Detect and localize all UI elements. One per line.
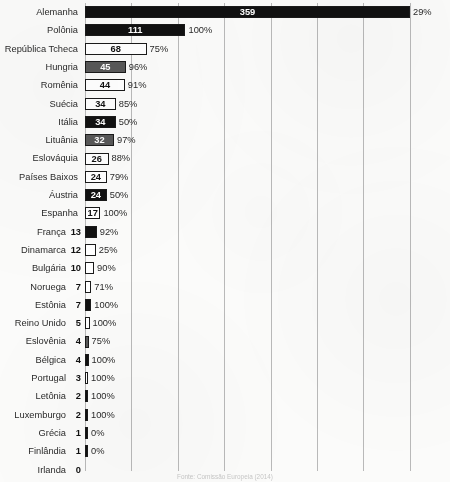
bar bbox=[85, 317, 90, 329]
bar-value: 32 bbox=[85, 134, 114, 146]
chart-row: Suécia3485% bbox=[0, 95, 450, 113]
source-note: Fonte: Comissão Europeia (2014) bbox=[0, 473, 450, 480]
chart-row: Países Baixos2479% bbox=[0, 168, 450, 186]
percent-label: 85% bbox=[119, 95, 138, 113]
chart-row: Lituânia3297% bbox=[0, 131, 450, 149]
percent-label: 75% bbox=[92, 332, 111, 350]
category-label: Romênia bbox=[0, 76, 78, 94]
category-label: Polônia bbox=[0, 21, 78, 39]
category-label: Hungria bbox=[0, 58, 78, 76]
percent-label: 100% bbox=[91, 387, 115, 405]
bar bbox=[85, 299, 91, 311]
bar-value: 7 bbox=[65, 296, 81, 314]
chart-row: Noruega771% bbox=[0, 278, 450, 296]
category-label: Eslováquia bbox=[0, 149, 78, 167]
bar bbox=[85, 372, 88, 384]
bar-value: 10 bbox=[65, 259, 81, 277]
percent-label: 100% bbox=[93, 314, 117, 332]
bar-value: 111 bbox=[85, 24, 185, 36]
chart-row: Bélgica4100% bbox=[0, 351, 450, 369]
bar bbox=[85, 409, 88, 421]
percent-label: 100% bbox=[103, 204, 127, 222]
category-label: Grécia bbox=[0, 424, 66, 442]
chart-row: República Tcheca6875% bbox=[0, 40, 450, 58]
chart-row: Romênia4491% bbox=[0, 76, 450, 94]
percent-label: 97% bbox=[117, 131, 136, 149]
chart-row: Bulgária1090% bbox=[0, 259, 450, 277]
bar bbox=[85, 354, 89, 366]
bar-value: 13 bbox=[65, 223, 81, 241]
chart-row: Finlândia10% bbox=[0, 442, 450, 460]
category-label: França bbox=[0, 223, 66, 241]
bar-value: 24 bbox=[85, 189, 107, 201]
percent-label: 75% bbox=[150, 40, 169, 58]
bar bbox=[85, 281, 91, 293]
category-label: Espanha bbox=[0, 204, 78, 222]
category-label: Luxemburgo bbox=[0, 406, 66, 424]
horizontal-bar-chart: Alemanha35929%Polônia111100%República Tc… bbox=[0, 0, 450, 482]
category-label: Estônia bbox=[0, 296, 66, 314]
category-label: Alemanha bbox=[0, 3, 78, 21]
chart-row: Itália3450% bbox=[0, 113, 450, 131]
bar-value: 4 bbox=[65, 332, 81, 350]
bar bbox=[85, 336, 89, 348]
category-label: Lituânia bbox=[0, 131, 78, 149]
category-label: Portugal bbox=[0, 369, 66, 387]
bar-value: 1 bbox=[65, 424, 81, 442]
percent-label: 79% bbox=[110, 168, 129, 186]
category-label: Áustria bbox=[0, 186, 78, 204]
bar-value: 7 bbox=[65, 278, 81, 296]
chart-row: Eslováquia2688% bbox=[0, 149, 450, 167]
category-label: Noruega bbox=[0, 278, 66, 296]
chart-row: França1392% bbox=[0, 223, 450, 241]
category-label: Reino Unido bbox=[0, 314, 66, 332]
percent-label: 50% bbox=[110, 186, 129, 204]
percent-label: 100% bbox=[188, 21, 212, 39]
percent-label: 90% bbox=[97, 259, 116, 277]
bar bbox=[85, 445, 88, 457]
percent-label: 91% bbox=[128, 76, 147, 94]
category-label: Finlândia bbox=[0, 442, 66, 460]
percent-label: 100% bbox=[92, 351, 116, 369]
chart-row: Áustria2450% bbox=[0, 186, 450, 204]
percent-label: 0% bbox=[91, 424, 104, 442]
chart-row: Luxemburgo2100% bbox=[0, 406, 450, 424]
percent-label: 88% bbox=[112, 149, 131, 167]
category-label: Bélgica bbox=[0, 351, 66, 369]
bar-value: 359 bbox=[85, 6, 410, 18]
chart-row: Alemanha35929% bbox=[0, 3, 450, 21]
category-label: Letônia bbox=[0, 387, 66, 405]
chart-row: Estônia7100% bbox=[0, 296, 450, 314]
chart-row: Portugal3100% bbox=[0, 369, 450, 387]
bar-value: 44 bbox=[85, 79, 125, 91]
percent-label: 92% bbox=[100, 223, 119, 241]
category-label: Países Baixos bbox=[0, 168, 78, 186]
category-label: Dinamarca bbox=[0, 241, 66, 259]
category-label: Bulgária bbox=[0, 259, 66, 277]
percent-label: 100% bbox=[91, 406, 115, 424]
chart-row: Hungria4596% bbox=[0, 58, 450, 76]
category-label: Itália bbox=[0, 113, 78, 131]
bar-value: 17 bbox=[85, 207, 100, 219]
bar-value: 24 bbox=[85, 171, 107, 183]
chart-row: Dinamarca1225% bbox=[0, 241, 450, 259]
bar bbox=[85, 390, 88, 402]
bar bbox=[85, 427, 88, 439]
category-label: Eslovênia bbox=[0, 332, 66, 350]
chart-row: Espanha17100% bbox=[0, 204, 450, 222]
category-label: Suécia bbox=[0, 95, 78, 113]
percent-label: 100% bbox=[94, 296, 118, 314]
chart-row: Polônia111100% bbox=[0, 21, 450, 39]
bar-value: 34 bbox=[85, 98, 116, 110]
bar-value: 2 bbox=[65, 387, 81, 405]
percent-label: 29% bbox=[413, 3, 432, 21]
percent-label: 100% bbox=[91, 369, 115, 387]
bar-value: 12 bbox=[65, 241, 81, 259]
chart-row: Letônia2100% bbox=[0, 387, 450, 405]
bar-value: 45 bbox=[85, 61, 126, 73]
chart-row: Reino Unido5100% bbox=[0, 314, 450, 332]
bar-value: 4 bbox=[65, 351, 81, 369]
bar-value: 68 bbox=[85, 43, 147, 55]
percent-label: 25% bbox=[99, 241, 118, 259]
bar-value: 26 bbox=[85, 153, 109, 165]
